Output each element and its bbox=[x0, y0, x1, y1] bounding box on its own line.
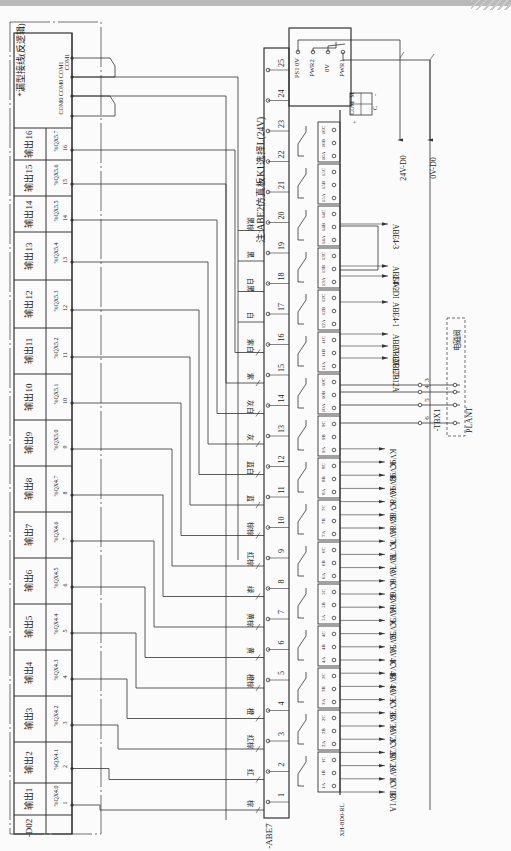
d02-output-4-label: 输出4 bbox=[23, 661, 34, 684]
relay-12-pin-12A: 12A bbox=[321, 319, 326, 328]
relay-14-pin-14A: 14A bbox=[321, 235, 326, 244]
relay-3-pin-3A: 3A bbox=[321, 699, 326, 706]
relay-13-terminal-13C bbox=[332, 254, 336, 258]
tbx1-id: -TBX1 bbox=[433, 409, 442, 432]
abe7-terminal-15-number: 15 bbox=[277, 364, 286, 372]
d02-output-8-pin: 8 bbox=[62, 492, 68, 495]
relay-14-terminal-14A bbox=[332, 238, 336, 242]
signal-label-ABE4-3: ABE4-3 bbox=[391, 224, 400, 249]
relay-14-terminal-14C bbox=[332, 212, 336, 216]
arrow-icon bbox=[379, 645, 385, 648]
relay-5-pin-5A: 5A bbox=[321, 615, 326, 622]
relay-8-terminal-8B bbox=[332, 477, 336, 481]
d02-output-1-label: 输出1 bbox=[23, 788, 34, 811]
arrow-icon bbox=[379, 553, 385, 556]
d02-output-11-pin: 11 bbox=[62, 352, 68, 358]
com-block-minus: - bbox=[372, 94, 378, 96]
wire-color-1: 棕 bbox=[246, 800, 255, 807]
d02-output-11-address: %QX5.2 bbox=[53, 337, 59, 358]
d02-output-5-address: %QX4.4 bbox=[53, 613, 59, 634]
d02-output-6-address: %QX4.5 bbox=[53, 567, 59, 588]
relay-9-switch-icon bbox=[298, 420, 306, 450]
power-terminal-4: PWR1 bbox=[338, 59, 345, 76]
wire-color-20: 黑棕 bbox=[246, 217, 255, 231]
wire-color-14: 灰白 bbox=[246, 400, 255, 414]
d02-output-1-pin: 1 bbox=[62, 802, 68, 805]
arrow-icon bbox=[379, 566, 385, 569]
power-line-24v-d0: 24V-D0 bbox=[399, 155, 408, 180]
wire-color-5: 橙棕 bbox=[246, 674, 255, 688]
arrow-icon bbox=[379, 487, 385, 490]
abe7-terminal-17-number: 17 bbox=[277, 303, 286, 311]
relay-11-switch-icon bbox=[298, 336, 306, 366]
relay-9-terminal-9C bbox=[332, 422, 336, 426]
d02-output-14-label: 输出14 bbox=[23, 200, 34, 228]
relay-7-terminal-7A bbox=[332, 532, 336, 536]
abe7-terminal-24-number: 24 bbox=[277, 90, 286, 98]
signal-label-ABE4-1: ABE4-1 bbox=[391, 302, 400, 327]
arrow-icon bbox=[379, 500, 385, 503]
abe7-terminal-4-number: 4 bbox=[277, 702, 286, 706]
arrow-icon bbox=[382, 264, 388, 268]
relay-9-terminal-9A bbox=[332, 448, 336, 452]
wire-color-13: 灰 bbox=[246, 434, 255, 441]
relay-1-pin-1A: 1A bbox=[321, 783, 326, 790]
relay-10-pin-10B: 10B bbox=[321, 390, 326, 399]
abe7-terminal-6-number: 6 bbox=[277, 641, 286, 645]
wire-color-2: 红 bbox=[246, 769, 255, 776]
tbx1-pin-6 bbox=[418, 421, 422, 425]
arrow-icon bbox=[379, 619, 385, 622]
relay-15-terminal-15C bbox=[332, 170, 336, 174]
abe7-terminal-18-number: 18 bbox=[277, 273, 286, 281]
arrow-icon bbox=[379, 711, 385, 714]
arrow-icon bbox=[379, 513, 385, 516]
d02-output-16-label: 输出16 bbox=[23, 130, 34, 158]
relay-14-pin-14C: 14C bbox=[321, 209, 326, 218]
relay-16-terminal-16C bbox=[332, 128, 336, 132]
d02-output-16-pin: 16 bbox=[62, 145, 68, 151]
plant-pin-5 bbox=[453, 403, 457, 407]
relay-9-terminal-9B bbox=[332, 435, 336, 439]
d02-output-15-address: %QX5.6 bbox=[53, 164, 59, 185]
d02-output-13-address: %QX5.4 bbox=[53, 242, 59, 263]
relay-14-pin-14B: 14B bbox=[321, 222, 326, 231]
com0-bus-wire bbox=[72, 96, 226, 820]
com-block-c: C bbox=[372, 106, 378, 110]
relay-5-switch-icon bbox=[298, 588, 306, 618]
arrow-icon bbox=[382, 344, 388, 348]
relay-4-pin-4B: 4B bbox=[321, 643, 326, 650]
arrow-icon bbox=[382, 222, 388, 226]
tbx1-pin-4-label: 4 bbox=[423, 385, 431, 389]
relay-3-terminal-3C bbox=[332, 674, 336, 678]
relay-8-pin-8A: 8A bbox=[321, 489, 326, 496]
tbx1-pin-3-label: 3 bbox=[423, 378, 431, 382]
d02-output-3-pin: 3 bbox=[62, 722, 68, 725]
d02-output-16-address: %QX5.7 bbox=[53, 130, 59, 151]
relay-13-terminal-13A bbox=[332, 280, 336, 284]
com0-jumper bbox=[72, 96, 115, 116]
plant-pin-6 bbox=[453, 421, 457, 425]
relay-15-switch-icon bbox=[298, 168, 306, 198]
d02-output-15-pin: 15 bbox=[62, 179, 68, 185]
com1-bus-wire bbox=[72, 77, 238, 560]
relay-13-switch-icon bbox=[298, 252, 306, 282]
wire-color-8: 绿 bbox=[246, 586, 255, 593]
arrow-icon bbox=[379, 474, 385, 477]
note-abe2-board: 注:ABE2仿真板K1选择L(24V) bbox=[255, 117, 267, 244]
relay-13-pin-13B: 13B bbox=[321, 264, 326, 273]
d02-output-10-label: 输出10 bbox=[23, 383, 34, 411]
relay-8-terminal-8A bbox=[332, 490, 336, 494]
arrow-icon bbox=[379, 698, 385, 701]
kv-label-KV9C: KV9C bbox=[388, 449, 397, 469]
d02-output-13-label: 输出13 bbox=[23, 242, 34, 270]
relay-2-pin-2A: 2A bbox=[321, 741, 326, 748]
d02-output-7-pin: 7 bbox=[62, 538, 68, 541]
plant-id: PLANT bbox=[465, 407, 474, 433]
relay-14-switch-icon bbox=[298, 210, 306, 240]
d02-output-6-pin: 6 bbox=[62, 584, 68, 587]
relay-16-terminal-16A bbox=[332, 154, 336, 158]
relay-13-terminal-13B bbox=[332, 267, 336, 271]
abe7-terminal-12-number: 12 bbox=[277, 456, 286, 464]
arrow-icon bbox=[379, 764, 385, 767]
arrow-icon bbox=[379, 658, 385, 661]
